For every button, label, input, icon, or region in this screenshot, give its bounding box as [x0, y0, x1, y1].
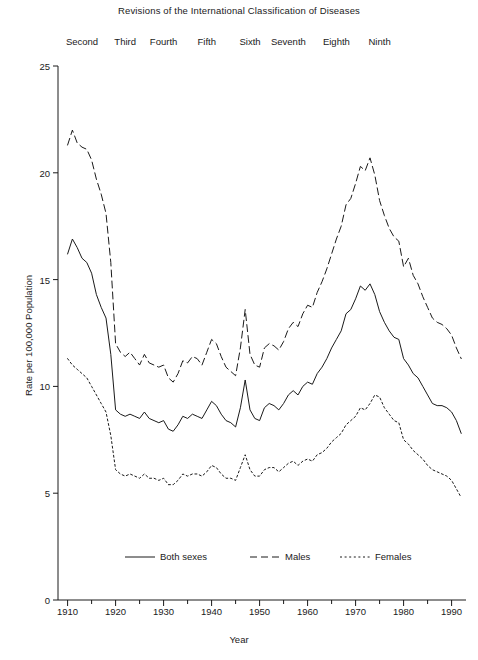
chart-container: Revisions of the International Classific…: [0, 0, 478, 660]
series-line-males: [68, 130, 462, 382]
y-tick-label: 25: [16, 61, 50, 72]
x-tick-label: 1910: [57, 606, 78, 617]
legend-item-both-sexes[interactable]: Both sexes: [125, 551, 207, 562]
x-tick-label: 1950: [249, 606, 270, 617]
x-tick-label: 1960: [297, 606, 318, 617]
x-tick-label: 1990: [441, 606, 462, 617]
legend-item-females[interactable]: Females: [340, 551, 411, 562]
legend-label: Females: [375, 551, 411, 562]
y-tick-label: 0: [16, 595, 50, 606]
series-line-both-sexes: [68, 239, 462, 433]
legend-label: Both sexes: [160, 551, 207, 562]
legend-swatch-solid: [125, 552, 155, 561]
x-tick-label: 1980: [393, 606, 414, 617]
legend-swatch-dashed: [250, 552, 280, 561]
series-line-females: [68, 359, 462, 498]
y-tick-label: 10: [16, 381, 50, 392]
x-tick-label: 1940: [201, 606, 222, 617]
legend-label: Males: [285, 551, 310, 562]
y-tick-label: 5: [16, 488, 50, 499]
legend-item-males[interactable]: Males: [250, 551, 310, 562]
x-tick-label: 1930: [153, 606, 174, 617]
x-tick-label: 1970: [345, 606, 366, 617]
chart-legend: Both sexesMalesFemales: [125, 551, 425, 569]
x-tick-label: 1920: [105, 606, 126, 617]
y-tick-label: 20: [16, 167, 50, 178]
y-tick-label: 15: [16, 274, 50, 285]
legend-swatch-dotted: [340, 552, 370, 561]
